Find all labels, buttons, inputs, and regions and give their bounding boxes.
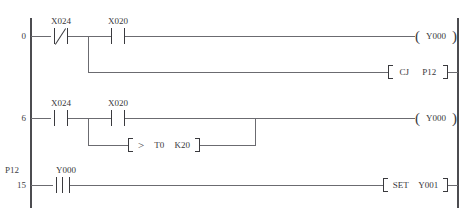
coil-device-label: Y000 <box>426 31 446 41</box>
wire-rung6-compare-to-merge <box>200 145 256 146</box>
wire-rung6-c1-to-node <box>68 118 89 119</box>
instruction-body: SET Y001 <box>388 176 443 194</box>
instruction-compare-greater-than-rung6[interactable]: > T0 K20 <box>128 136 200 154</box>
wire-rung15-c1-to-set <box>70 185 384 186</box>
coil-paren-right: ) <box>452 111 457 126</box>
contact-bar-left <box>54 28 55 44</box>
rising-edge-pulse-bar <box>62 177 63 193</box>
coil-paren-right: ) <box>452 29 457 44</box>
device-label-rung15-contact-1: Y000 <box>46 165 86 175</box>
instruction-operand: P12 <box>422 67 436 77</box>
instruction-set-y001-rung15[interactable]: SET Y001 <box>383 176 448 194</box>
wire-rung6-c2-to-coil <box>125 118 415 119</box>
coil-device-label: Y000 <box>426 113 446 123</box>
branch-vertical-right-rung6 <box>255 118 256 145</box>
compare-operand-2: K20 <box>174 140 190 150</box>
step-number-rung-15: 15 <box>6 180 26 190</box>
coil-y000-rung6[interactable]: ( Y000 ) <box>415 109 457 127</box>
left-power-rail <box>30 18 32 208</box>
instruction-mnemonic: CJ <box>400 67 410 77</box>
right-power-rail <box>457 18 459 208</box>
wire-rung0-cj-to-right-rail <box>448 72 458 73</box>
instruction-cj-p12-rung0[interactable]: CJ P12 <box>388 63 448 81</box>
compare-operator: > <box>138 140 144 150</box>
instruction-mnemonic: SET <box>393 180 409 190</box>
wire-rung15-rail-to-c1 <box>31 185 53 186</box>
device-label-rung0-contact-2: X020 <box>98 16 138 26</box>
contact-bar-left <box>56 177 57 193</box>
device-label-rung0-contact-1: X024 <box>41 16 81 26</box>
wire-rung0-c1-to-node <box>68 36 89 37</box>
wire-rung0-c2-to-coil <box>125 36 415 37</box>
wire-rung6-node-to-c2 <box>88 118 111 119</box>
coil-paren-left: ( <box>415 111 420 126</box>
branch-vertical-rung0 <box>88 36 89 72</box>
contact-bar-left <box>54 110 55 126</box>
wire-rung0-rail-to-c1 <box>31 36 51 37</box>
step-number-rung-0: 0 <box>8 31 26 41</box>
wire-rung0-node-to-c2 <box>88 36 111 37</box>
coil-y000-rung0[interactable]: ( Y000 ) <box>415 27 457 45</box>
coil-paren-left: ( <box>415 29 420 44</box>
wire-rung6-rail-to-c1 <box>31 118 51 119</box>
normally-closed-slash <box>55 28 66 44</box>
wire-rung6-branch-to-compare <box>88 145 129 146</box>
instruction-operand: Y001 <box>418 180 438 190</box>
wire-rung0-branch-to-cj <box>88 72 389 73</box>
step-number-rung-6: 6 <box>8 113 26 123</box>
instruction-body: > T0 K20 <box>133 136 195 154</box>
ladder-diagram-canvas: 0 X024 X020 ( Y000 ) CJ P12 <box>0 0 471 218</box>
instruction-body: CJ P12 <box>393 63 443 81</box>
compare-operand-1: T0 <box>154 140 164 150</box>
device-label-rung6-contact-2: X020 <box>98 98 138 108</box>
device-label-rung6-contact-1: X024 <box>41 98 81 108</box>
contact-bar-left <box>111 28 112 44</box>
branch-vertical-left-rung6 <box>88 118 89 145</box>
contact-bar-left <box>111 110 112 126</box>
pointer-label-p12: P12 <box>5 165 19 175</box>
wire-rung15-set-to-right-rail <box>448 185 458 186</box>
